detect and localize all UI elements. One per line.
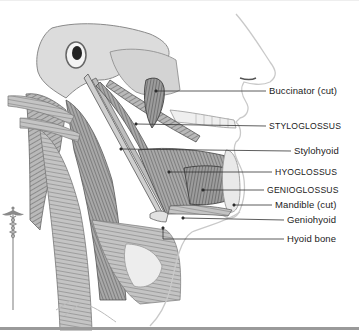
label-mandible: Mandible (cut): [275, 200, 337, 210]
label-geniohyoid: Geniohyoid: [287, 215, 336, 225]
anatomy-illustration: [0, 0, 359, 332]
label-hyoid-bone: Hyoid bone: [287, 234, 336, 244]
label-buccinator: Buccinator (cut): [269, 86, 337, 96]
bottom-divider: [0, 327, 359, 330]
anatomy-figure: Buccinator (cut) STYLOGLOSSUS Stylohyoid…: [0, 0, 359, 332]
caduceus-icon: [2, 206, 24, 310]
label-styloglossus: STYLOGLOSSUS: [269, 121, 341, 131]
label-genioglossus: GENIOGLOSSUS: [267, 185, 339, 195]
label-hyoglossus: HYOGLOSSUS: [275, 167, 337, 177]
label-stylohyoid: Stylohyoid: [294, 146, 339, 156]
